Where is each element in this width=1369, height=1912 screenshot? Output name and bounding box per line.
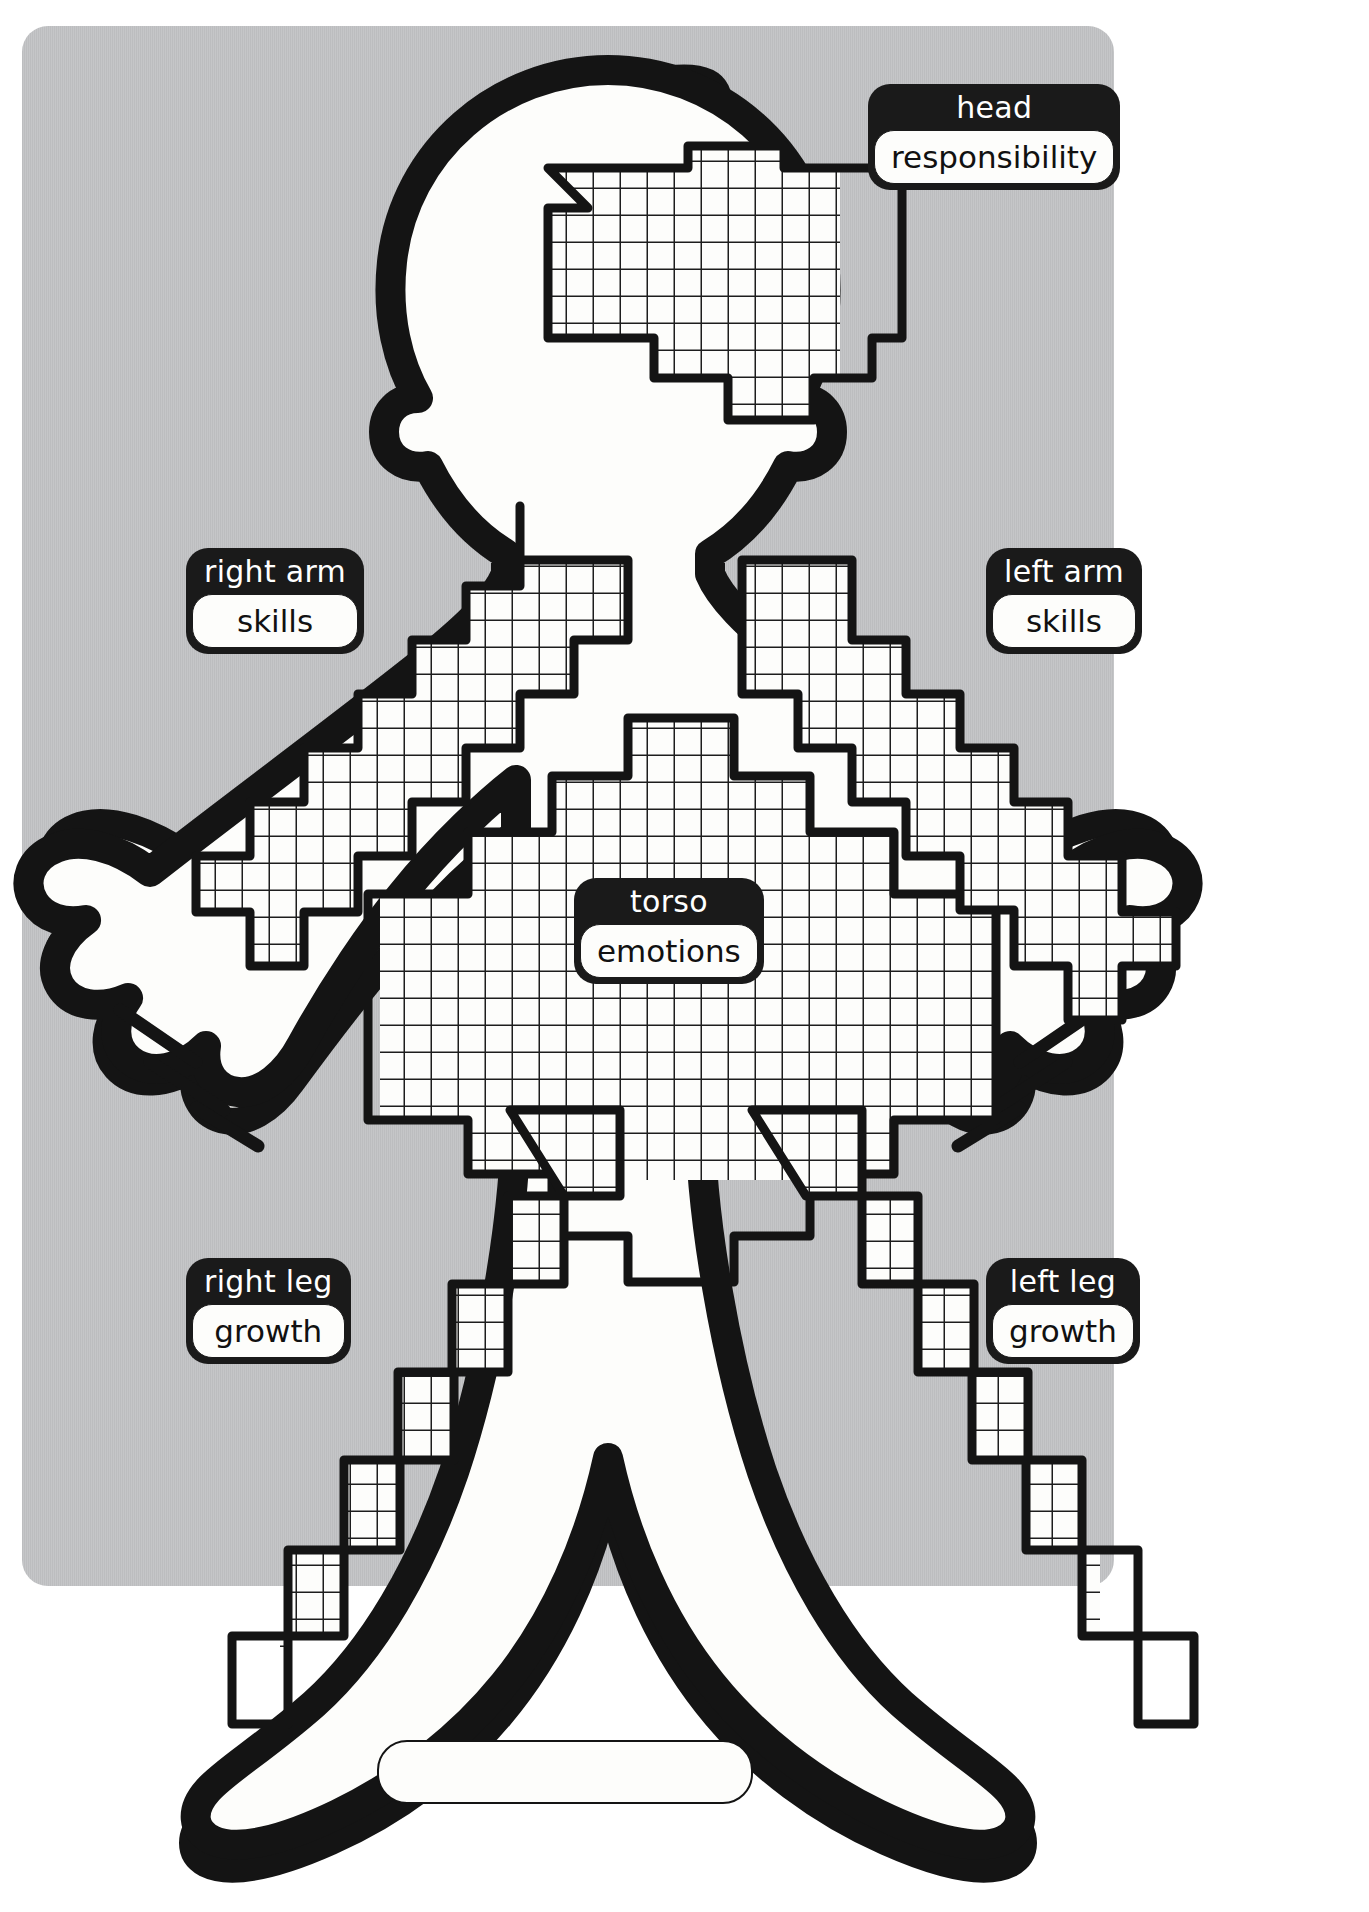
name-field-input[interactable] — [377, 1740, 753, 1804]
label-right-leg-value[interactable]: growth — [192, 1304, 345, 1358]
worksheet-page: head responsibility right arm skills lef… — [0, 0, 1369, 1912]
label-head-part: head — [868, 90, 1120, 130]
label-head-value[interactable]: responsibility — [874, 130, 1114, 184]
label-right-arm-part: right arm — [186, 554, 364, 594]
label-left-arm-value[interactable]: skills — [992, 594, 1136, 648]
label-left-arm-part: left arm — [986, 554, 1142, 594]
label-right-leg-part: right leg — [186, 1264, 351, 1304]
label-right-arm-value[interactable]: skills — [192, 594, 358, 648]
name-field-label: name — [357, 1698, 777, 1732]
label-left-leg-part: left leg — [986, 1264, 1140, 1304]
label-torso-part: torso — [574, 884, 764, 924]
label-left-leg-value[interactable]: growth — [992, 1304, 1134, 1358]
label-torso-value[interactable]: emotions — [580, 924, 758, 978]
name-field[interactable]: name — [355, 1700, 775, 1804]
